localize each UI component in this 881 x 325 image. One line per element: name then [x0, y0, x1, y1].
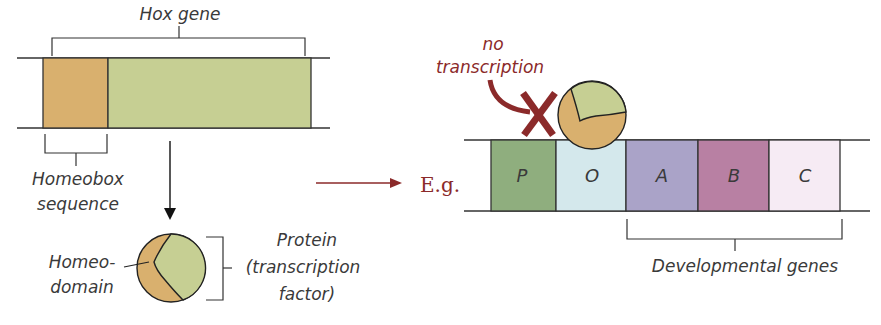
homeodomain-label-line1: Homeo-	[49, 252, 116, 272]
homeobox-segment	[43, 58, 108, 128]
segment-label-p: P	[517, 165, 528, 186]
hox-gene-label: Hox gene	[139, 4, 220, 24]
protein-bracket	[206, 237, 232, 300]
homeobox-bracket	[45, 134, 107, 166]
protein-label-line3: factor)	[279, 284, 335, 304]
down-arrow-icon	[164, 141, 176, 220]
protein-label-line1: Protein	[277, 230, 337, 250]
segment-label-c: C	[799, 165, 812, 186]
hox-gene-bracket	[52, 26, 305, 56]
protein-circle-icon	[137, 234, 206, 302]
protein-label-line2: (transcription	[246, 257, 361, 277]
segment-label-o: O	[585, 165, 599, 186]
hox-gene-dna	[17, 58, 330, 128]
segment-label-a: A	[655, 165, 668, 186]
homeobox-label-line1: Homeobox	[32, 169, 125, 189]
bound-protein-icon	[558, 81, 626, 149]
segment-label-b: B	[728, 165, 740, 186]
eg-label: E.g.	[420, 173, 460, 197]
developmental-genes-label: Developmental genes	[652, 256, 838, 276]
hox-gene-body-segment	[108, 58, 311, 128]
hox-gene-diagram: Hox gene Homeobox sequence Homeo- domain…	[0, 0, 881, 325]
right-arrow-icon	[316, 178, 402, 188]
homeodomain-label-line2: domain	[50, 277, 114, 297]
no-transcription-line1: no	[482, 34, 503, 54]
homeobox-label-line2: sequence	[37, 194, 119, 214]
no-transcription-line2: transcription	[436, 57, 544, 77]
developmental-genes-bracket	[627, 219, 842, 251]
